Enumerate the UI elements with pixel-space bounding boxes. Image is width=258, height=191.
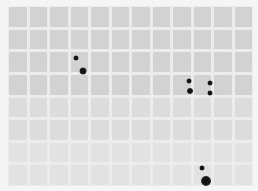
array-cell bbox=[30, 75, 48, 95]
array-cell bbox=[91, 52, 109, 72]
array-cell bbox=[30, 52, 48, 72]
array-cell bbox=[173, 120, 191, 140]
signal-spot bbox=[201, 176, 211, 186]
array-cell bbox=[112, 120, 130, 140]
array-cell bbox=[194, 120, 212, 140]
dot-blot-membrane bbox=[0, 0, 258, 191]
array-cell bbox=[214, 98, 232, 118]
array-cell bbox=[214, 30, 232, 50]
array-cell bbox=[194, 7, 212, 27]
array-cell bbox=[194, 98, 212, 118]
signal-spot bbox=[74, 56, 79, 61]
array-cell bbox=[91, 98, 109, 118]
array-cell bbox=[153, 7, 171, 27]
array-cell bbox=[235, 143, 253, 163]
array-cell bbox=[112, 75, 130, 95]
array-cell bbox=[91, 120, 109, 140]
array-cell bbox=[30, 98, 48, 118]
array-cell bbox=[214, 143, 232, 163]
array-cell bbox=[153, 165, 171, 185]
array-cell bbox=[112, 165, 130, 185]
array-cell bbox=[91, 143, 109, 163]
array-cell bbox=[71, 98, 89, 118]
array-cell bbox=[194, 52, 212, 72]
array-cell bbox=[173, 7, 191, 27]
signal-spot bbox=[80, 68, 87, 75]
array-cell bbox=[235, 30, 253, 50]
array-cell bbox=[112, 7, 130, 27]
array-cell bbox=[71, 165, 89, 185]
array-cell bbox=[9, 143, 27, 163]
array-cell bbox=[30, 143, 48, 163]
array-cell bbox=[30, 120, 48, 140]
array-cell bbox=[50, 120, 68, 140]
array-cell bbox=[214, 52, 232, 72]
array-cell bbox=[91, 75, 109, 95]
array-cell bbox=[173, 52, 191, 72]
array-cell bbox=[112, 52, 130, 72]
array-cell bbox=[132, 120, 150, 140]
signal-spot bbox=[208, 81, 213, 86]
array-cell bbox=[235, 7, 253, 27]
array-cell bbox=[50, 52, 68, 72]
array-cell bbox=[235, 165, 253, 185]
array-grid bbox=[8, 6, 253, 186]
array-cell bbox=[214, 120, 232, 140]
array-cell bbox=[71, 143, 89, 163]
array-cell bbox=[50, 75, 68, 95]
array-cell bbox=[194, 30, 212, 50]
array-cell bbox=[214, 165, 232, 185]
array-cell bbox=[9, 98, 27, 118]
array-cell bbox=[153, 98, 171, 118]
array-cell bbox=[71, 30, 89, 50]
array-cell bbox=[71, 7, 89, 27]
signal-spot bbox=[208, 91, 213, 96]
array-cell bbox=[214, 75, 232, 95]
array-cell bbox=[50, 98, 68, 118]
array-cell bbox=[9, 30, 27, 50]
array-cell bbox=[9, 75, 27, 95]
array-cell bbox=[132, 7, 150, 27]
signal-spot bbox=[200, 166, 205, 171]
array-cell bbox=[235, 52, 253, 72]
array-cell bbox=[153, 52, 171, 72]
array-cell bbox=[30, 30, 48, 50]
array-cell bbox=[173, 98, 191, 118]
array-cell bbox=[112, 143, 130, 163]
array-cell bbox=[91, 30, 109, 50]
array-cell bbox=[173, 30, 191, 50]
array-cell bbox=[132, 143, 150, 163]
array-cell bbox=[153, 143, 171, 163]
array-cell bbox=[30, 165, 48, 185]
array-cell bbox=[173, 143, 191, 163]
array-cell bbox=[132, 52, 150, 72]
signal-spot bbox=[187, 88, 193, 94]
array-cell bbox=[9, 120, 27, 140]
array-cell bbox=[91, 165, 109, 185]
signal-spot bbox=[187, 79, 192, 84]
array-cell bbox=[235, 75, 253, 95]
array-cell bbox=[30, 7, 48, 27]
array-cell bbox=[132, 75, 150, 95]
array-cell bbox=[112, 98, 130, 118]
array-cell bbox=[71, 75, 89, 95]
array-cell bbox=[235, 98, 253, 118]
array-cell bbox=[50, 30, 68, 50]
array-cell bbox=[9, 7, 27, 27]
array-cell bbox=[153, 30, 171, 50]
array-cell bbox=[112, 30, 130, 50]
array-cell bbox=[71, 120, 89, 140]
array-cell bbox=[194, 143, 212, 163]
array-cell bbox=[173, 165, 191, 185]
array-cell bbox=[132, 98, 150, 118]
array-cell bbox=[153, 75, 171, 95]
array-cell bbox=[91, 7, 109, 27]
array-cell bbox=[50, 7, 68, 27]
array-cell bbox=[235, 120, 253, 140]
array-cell bbox=[50, 165, 68, 185]
array-cell bbox=[50, 143, 68, 163]
array-cell bbox=[132, 165, 150, 185]
array-cell bbox=[9, 52, 27, 72]
array-cell bbox=[9, 165, 27, 185]
array-cell bbox=[214, 7, 232, 27]
